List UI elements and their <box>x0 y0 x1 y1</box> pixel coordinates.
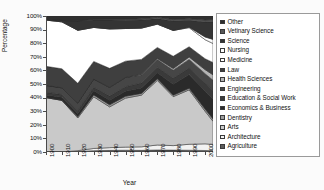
legend-item[interactable]: Medicine <box>220 55 317 65</box>
legend-item[interactable]: Architecture <box>220 132 317 142</box>
y-axis-ticks: 0%10%20%30%40%50%60%70%80%90%100% <box>0 0 46 152</box>
legend-swatch-icon <box>220 115 225 120</box>
x-axis-title: Year <box>46 180 213 187</box>
legend-swatch-icon <box>220 125 225 130</box>
legend-item-label: Law <box>228 67 239 73</box>
y-tick-label: 70% <box>30 54 42 60</box>
legend-item-label: Medicine <box>228 57 253 63</box>
legend-item-label: Dentistry <box>228 115 252 121</box>
legend-item[interactable]: Other <box>220 17 317 27</box>
legend-item-label: Arts <box>228 124 239 130</box>
y-tick-label: 30% <box>30 108 42 114</box>
chart-legend: OtherVetinary ScienceScienceNursingMedic… <box>216 13 320 157</box>
y-tick-label: 60% <box>30 67 42 73</box>
legend-item-label: Education & Social Work <box>228 95 296 101</box>
legend-swatch-icon <box>220 29 225 34</box>
x-tick-label: 1930 <box>97 144 103 157</box>
legend-item[interactable]: Education & Social Work <box>220 94 317 104</box>
legend-swatch-icon <box>220 87 225 92</box>
x-tick-mark <box>62 152 63 155</box>
legend-item[interactable]: Engineering <box>220 84 317 94</box>
x-tick-label: 2000 <box>208 144 214 157</box>
legend-item-label: Engineering <box>228 86 261 92</box>
plot-area <box>46 16 213 152</box>
x-tick-mark <box>126 152 127 155</box>
legend-item[interactable]: Dentistry <box>220 113 317 123</box>
legend-item[interactable]: Arts <box>220 123 317 133</box>
y-tick-label: 10% <box>30 135 42 141</box>
legend-item[interactable]: Vetinary Science <box>220 27 317 37</box>
legend-item-label: Other <box>228 19 244 25</box>
legend-item-label: Economics & Business <box>228 105 291 111</box>
x-tick-label: 1940 <box>113 144 119 157</box>
x-tick-mark <box>94 152 95 155</box>
legend-item[interactable]: Health Sciences <box>220 75 317 85</box>
x-tick-label: 1970 <box>160 144 166 157</box>
x-tick-label: 1980 <box>176 144 182 157</box>
legend-item[interactable]: Science <box>220 36 317 46</box>
y-tick-label: 100% <box>27 13 42 19</box>
legend-item-label: Health Sciences <box>228 76 273 82</box>
legend-item-label: Science <box>228 38 250 44</box>
legend-item-label: Vetinary Science <box>228 28 274 34</box>
legend-swatch-icon <box>220 48 225 53</box>
stacked-area-series <box>46 16 213 152</box>
x-tick-label: 1960 <box>144 144 150 157</box>
legend-item[interactable]: Nursing <box>220 46 317 56</box>
y-tick-label: 50% <box>30 81 42 87</box>
legend-swatch-icon <box>220 68 225 73</box>
legend-swatch-icon <box>220 106 225 111</box>
legend-item-label: Agriculture <box>228 143 258 149</box>
x-tick-label: 1900 <box>49 144 55 157</box>
legend-item[interactable]: Economics & Business <box>220 103 317 113</box>
x-tick-mark <box>46 152 47 155</box>
legend-item[interactable]: Agriculture <box>220 142 317 152</box>
legend-swatch-icon <box>220 39 225 44</box>
legend-swatch-icon <box>220 135 225 140</box>
y-tick-label: 90% <box>30 26 42 32</box>
legend-item-label: Architecture <box>228 134 261 140</box>
x-tick-label: 1910 <box>65 144 71 157</box>
x-tick-label: 1920 <box>81 144 87 157</box>
y-tick-label: 80% <box>30 40 42 46</box>
x-tick-label: 1990 <box>192 144 198 157</box>
y-tick-label: 40% <box>30 94 42 100</box>
legend-swatch-icon <box>220 96 225 101</box>
legend-item-label: Nursing <box>228 47 249 53</box>
chart-root: Percentage 0%10%20%30%40%50%60%70%80%90%… <box>0 0 324 190</box>
y-tick-label: 20% <box>30 122 42 128</box>
x-tick-mark <box>189 152 190 155</box>
legend-item[interactable]: Law <box>220 65 317 75</box>
legend-swatch-icon <box>220 77 225 82</box>
legend-swatch-icon <box>220 20 225 25</box>
y-tick-label: 0% <box>33 149 42 155</box>
x-tick-label: 1950 <box>129 144 135 157</box>
legend-swatch-icon <box>220 58 225 63</box>
x-tick-mark <box>78 152 79 155</box>
x-tick-mark <box>110 152 111 155</box>
legend-swatch-icon <box>220 144 225 149</box>
x-tick-mark <box>205 152 206 155</box>
